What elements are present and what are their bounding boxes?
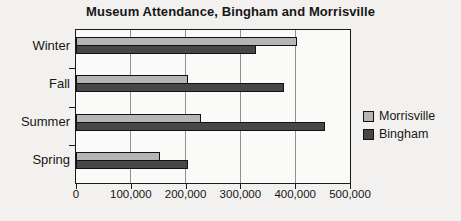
legend-swatch-bingham-icon — [363, 129, 374, 140]
bar-bingham-fall — [76, 83, 284, 92]
x-axis-label-500000: 500,000 — [310, 188, 390, 200]
category-label-spring: Spring — [0, 152, 70, 168]
bar-bingham-winter — [76, 45, 256, 54]
y-axis-tick-2 — [69, 107, 75, 108]
bar-bingham-summer — [76, 122, 325, 131]
category-label-winter: Winter — [0, 38, 70, 54]
legend-item-morrisville: Morrisville — [363, 110, 435, 123]
y-axis-tick-3 — [69, 145, 75, 146]
gridline-400000 — [295, 30, 296, 183]
plot-area — [75, 29, 351, 184]
legend-label-bingham: Bingham — [379, 128, 428, 141]
bar-chart: Museum Attendance, Bingham and Morrisvil… — [0, 0, 461, 221]
legend-item-bingham: Bingham — [363, 128, 435, 141]
chart-title: Museum Attendance, Bingham and Morrisvil… — [0, 4, 461, 19]
category-label-fall: Fall — [0, 76, 70, 92]
legend-label-morrisville: Morrisville — [379, 110, 435, 123]
category-label-summer: Summer — [0, 114, 70, 130]
bar-bingham-spring — [76, 160, 188, 169]
legend-swatch-morrisville-icon — [363, 111, 374, 122]
legend: MorrisvilleBingham — [363, 110, 435, 146]
y-axis-tick-1 — [69, 68, 75, 69]
